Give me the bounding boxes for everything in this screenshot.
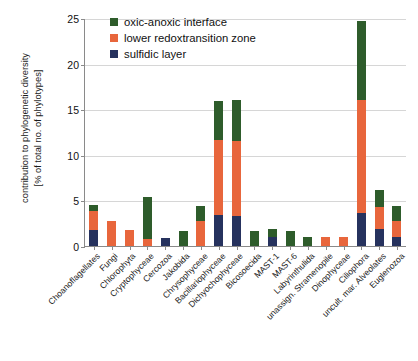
stacked-bar[interactable] — [303, 237, 312, 246]
bar-segment — [89, 211, 98, 229]
bar-slot[interactable] — [299, 19, 317, 246]
bar-segment — [375, 190, 384, 207]
bar-segment — [268, 237, 277, 246]
bar-segment — [232, 100, 241, 141]
stacked-bar[interactable] — [143, 197, 152, 246]
y-axis-tick-label: 10 — [67, 150, 79, 162]
y-axis-title-container: contribution to phylogenetic diversity [… — [0, 0, 62, 255]
y-axis-tick-label: 15 — [67, 104, 79, 116]
y-axis-tick-label: 5 — [73, 195, 79, 207]
bar-segment — [392, 206, 401, 222]
bar-slot[interactable] — [317, 19, 335, 246]
y-axis-tick-label: 25 — [67, 13, 79, 25]
stacked-bar[interactable] — [214, 101, 223, 246]
bar-segment — [286, 231, 295, 247]
stacked-bar[interactable] — [375, 190, 384, 247]
bar-segment — [232, 141, 241, 216]
bar-segment — [321, 237, 330, 246]
legend-label: sulfidic layer — [124, 48, 186, 60]
stacked-bar[interactable] — [250, 231, 259, 247]
legend-item[interactable]: lower redoxtransition zone — [110, 30, 256, 45]
x-axis-labels-group: ChoanoflagellatesFungiChlorophytaCryptop… — [84, 247, 406, 361]
bar-segment — [303, 237, 312, 246]
legend-swatch — [110, 50, 118, 58]
stacked-bar[interactable] — [179, 231, 188, 247]
bar-segment — [214, 140, 223, 215]
stacked-bar[interactable] — [107, 221, 116, 246]
x-axis-label: Choanoflagellates — [46, 251, 102, 307]
stacked-bar[interactable] — [321, 237, 330, 246]
y-axis-tick-label: 0 — [73, 241, 79, 253]
bar-slot[interactable] — [388, 19, 406, 246]
bar-segment — [375, 207, 384, 229]
bar-segment — [179, 231, 188, 247]
stacked-bar[interactable] — [232, 100, 241, 246]
bar-segment — [161, 238, 170, 246]
legend-swatch — [110, 18, 118, 26]
stacked-bar[interactable] — [161, 238, 170, 246]
stacked-bar[interactable] — [125, 230, 134, 246]
bar-segment — [250, 231, 259, 247]
bar-segment — [125, 230, 134, 246]
bar-segment — [357, 213, 366, 246]
legend-label: lower redoxtransition zone — [124, 32, 256, 44]
bar-slot[interactable] — [281, 19, 299, 246]
y-axis-title-line2: [% of total no. of phylotypes] — [31, 53, 44, 203]
bar-segment — [214, 101, 223, 140]
bar-segment — [143, 197, 152, 239]
bar-segment — [392, 221, 401, 237]
bar-segment — [196, 221, 205, 246]
y-axis-title-line1: contribution to phylogenetic diversity — [20, 53, 30, 203]
bar-segment — [107, 221, 116, 246]
bar-segment — [392, 237, 401, 246]
bar-slot[interactable] — [85, 19, 103, 246]
stacked-bar[interactable] — [268, 229, 277, 246]
bar-segment — [143, 239, 152, 246]
bar-slot[interactable] — [335, 19, 353, 246]
bar-segment — [268, 229, 277, 237]
y-axis-title: contribution to phylogenetic diversity [… — [19, 53, 44, 203]
bar-slot[interactable] — [263, 19, 281, 246]
stacked-bar[interactable] — [286, 231, 295, 247]
bar-segment — [357, 21, 366, 100]
bar-segment — [214, 215, 223, 246]
legend: oxic-anoxic interfacelower redoxtransiti… — [110, 14, 256, 61]
bar-segment — [89, 230, 98, 246]
bar-slot[interactable] — [370, 19, 388, 246]
legend-swatch — [110, 34, 118, 42]
stacked-bar[interactable] — [196, 206, 205, 246]
bar-chart-figure: contribution to phylogenetic diversity [… — [0, 0, 418, 361]
stacked-bar[interactable] — [89, 205, 98, 246]
bar-segment — [232, 216, 241, 246]
legend-item[interactable]: sulfidic layer — [110, 46, 256, 61]
legend-item[interactable]: oxic-anoxic interface — [110, 14, 256, 29]
bar-segment — [375, 229, 384, 246]
bar-segment — [357, 100, 366, 213]
bar-slot[interactable] — [352, 19, 370, 246]
bar-segment — [339, 237, 348, 246]
legend-label: oxic-anoxic interface — [124, 16, 227, 28]
stacked-bar[interactable] — [339, 237, 348, 246]
stacked-bar[interactable] — [392, 206, 401, 246]
bar-segment — [196, 206, 205, 222]
stacked-bar[interactable] — [357, 21, 366, 246]
y-axis-tick-label: 20 — [67, 59, 79, 71]
